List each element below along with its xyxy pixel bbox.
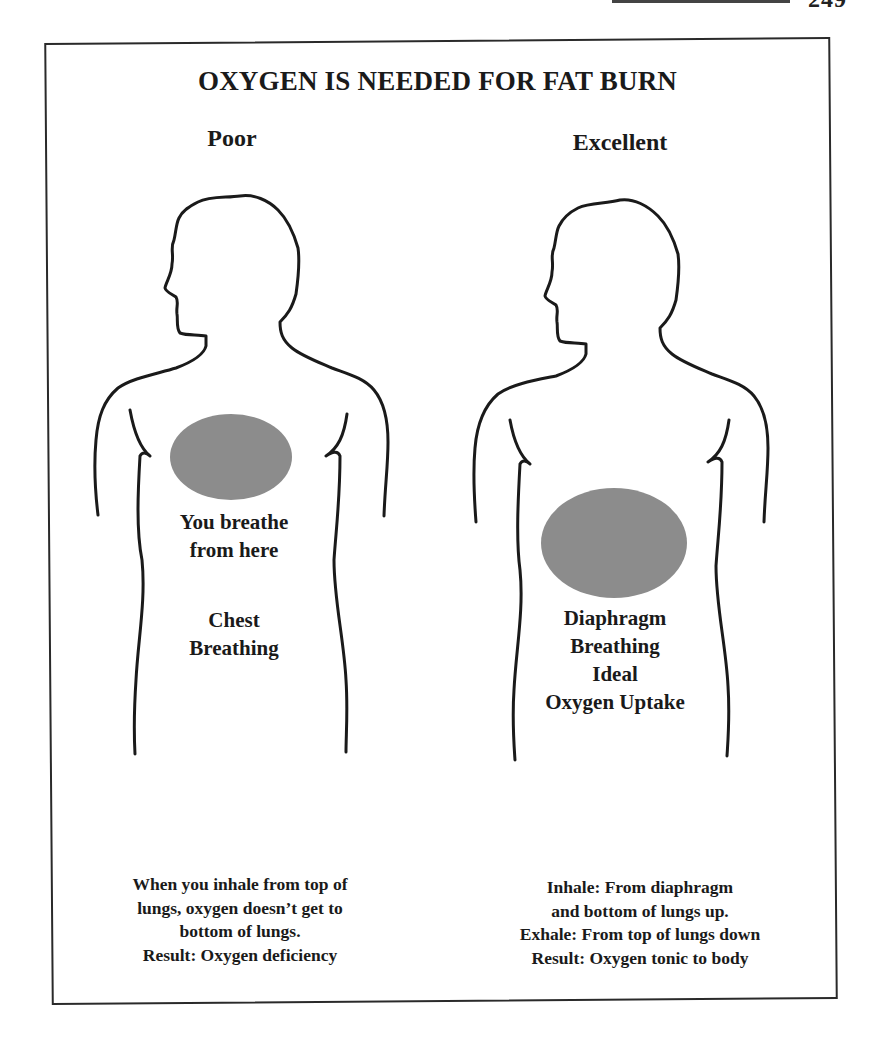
note-line: Result: Oxygen tonic to body: [470, 947, 810, 971]
label-poor: Poor: [132, 125, 332, 152]
left-breathing-type: Chest Breathing: [134, 606, 334, 662]
note-line: and bottom of lungs up.: [470, 900, 810, 924]
caption-line: Oxygen Uptake: [515, 688, 715, 716]
caption-line: You breathe: [134, 508, 334, 536]
left-location-caption: You breathe from here: [134, 508, 334, 564]
left-explanation: When you inhale from top of lungs, oxyge…: [60, 873, 420, 967]
left-body-outline: [95, 196, 388, 754]
right-explanation: Inhale: From diaphragm and bottom of lun…: [470, 876, 810, 970]
diaphragm-breathing-area: [541, 488, 687, 598]
caption-line: Ideal: [515, 660, 715, 688]
caption-line: Chest: [134, 606, 334, 634]
note-line: Exhale: From top of lungs down: [470, 923, 810, 947]
note-line: Inhale: From diaphragm: [470, 876, 810, 900]
figure-title: OXYGEN IS NEEDED FOR FAT BURN: [0, 66, 875, 97]
caption-line: Diaphragm: [515, 604, 715, 632]
note-line: When you inhale from top of: [60, 873, 420, 897]
label-excellent: Excellent: [520, 129, 720, 156]
caption-line: Breathing: [134, 634, 334, 662]
note-line: lungs, oxygen doesn’t get to: [60, 897, 420, 921]
chest-breathing-area: [170, 414, 292, 500]
note-line: bottom of lungs.: [60, 920, 420, 944]
caption-line: Breathing: [515, 632, 715, 660]
right-breathing-type: Diaphragm Breathing Ideal Oxygen Uptake: [515, 604, 715, 716]
note-line: Result: Oxygen deficiency: [60, 944, 420, 968]
caption-line: from here: [134, 536, 334, 564]
